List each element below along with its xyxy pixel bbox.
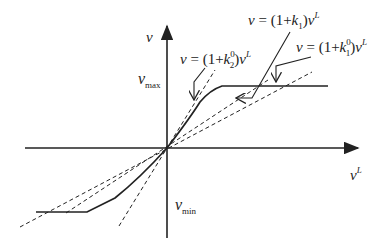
leader-k2-0	[194, 68, 205, 100]
equation-k1: v = (1+k1)vL	[248, 10, 319, 31]
saturation-curve	[36, 86, 328, 212]
y-axis-label: v	[146, 29, 153, 45]
vmax-label: vmax	[138, 70, 161, 90]
equation-k1-0: v = (1+k01)vL	[296, 37, 367, 58]
saturation-diagram: v vL vmax vmin v = (1+k1)vL v = (1+k01)v…	[0, 0, 383, 248]
leader-k1-0	[276, 57, 311, 82]
x-axis-label: vL	[350, 165, 362, 183]
equation-k2-0: v = (1+k02)vL	[180, 49, 251, 70]
vmin-label: vmin	[175, 196, 197, 216]
